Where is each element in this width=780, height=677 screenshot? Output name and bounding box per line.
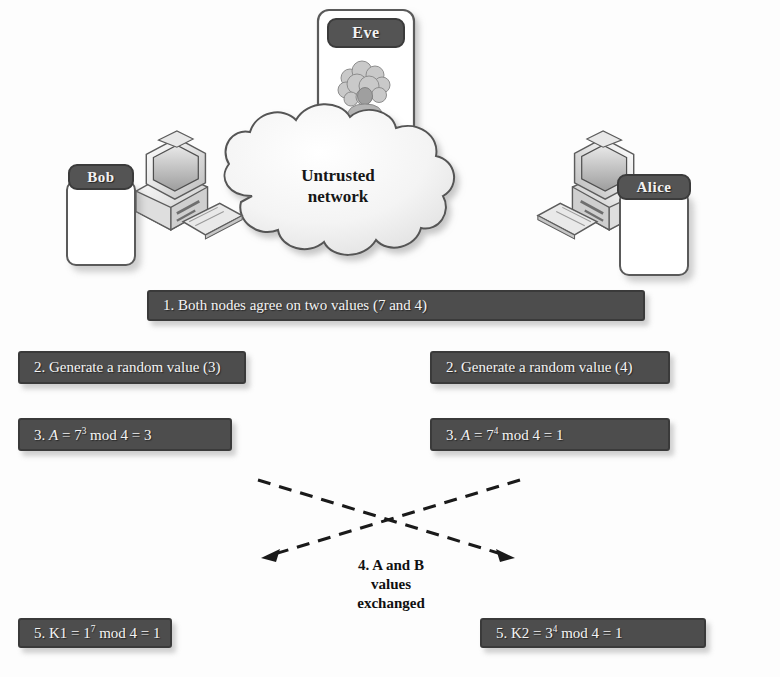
step-5-left-suffix: mod 4 = 1	[95, 625, 160, 641]
step-4-label: 4. A and B values exchanged	[311, 556, 471, 612]
step-2-right-bar: 2. Generate a random value (4)	[430, 351, 670, 384]
bob-card	[66, 180, 136, 266]
alice-name-label: Alice	[637, 179, 672, 196]
step-3-right-bar: 3. A = 74 mod 4 = 1	[430, 418, 670, 451]
step-5-right-suffix: mod 4 = 1	[557, 625, 622, 641]
step-5-left-formula: 5. K1 = 17 mod 4 = 1	[34, 624, 161, 642]
step-3-left-bar: 3. A = 73 mod 4 = 3	[18, 418, 232, 451]
eve-avatar-icon	[338, 61, 390, 118]
step-3-right-suffix: mod 4 = 1	[498, 427, 563, 443]
step-4-line2: values	[311, 575, 471, 594]
step-2-left-text: 2. Generate a random value (3)	[34, 359, 221, 376]
arrowhead-left	[261, 549, 280, 562]
network-label: Untrusted network	[258, 166, 418, 207]
exchange-arrow-left	[268, 480, 520, 556]
step-3-left-prefix: 3.	[34, 427, 49, 443]
step-4-line3: exchanged	[311, 594, 471, 613]
alice-card	[619, 190, 689, 276]
bob-name-label: Bob	[87, 169, 114, 186]
step-5-left-prefix: 5. K1 = 1	[34, 625, 91, 641]
step-3-left-var: A	[49, 427, 58, 443]
step-5-right-prefix: 5. K2 = 3	[496, 625, 553, 641]
step-1-text: 1. Both nodes agree on two values (7 and…	[163, 297, 427, 314]
exchange-arrow-right	[258, 480, 508, 556]
eve-name-label: Eve	[352, 24, 379, 42]
network-label-line1: Untrusted	[258, 166, 418, 187]
step-2-left-bar: 2. Generate a random value (3)	[18, 351, 246, 384]
step-5-right-bar: 5. K2 = 34 mod 4 = 1	[480, 618, 706, 648]
step-5-left-bar: 5. K1 = 17 mod 4 = 1	[18, 618, 172, 648]
eve-name-badge: Eve	[327, 18, 405, 48]
step-1-bar: 1. Both nodes agree on two values (7 and…	[147, 290, 645, 321]
step-3-left-suffix: mod 4 = 3	[86, 427, 151, 443]
step-5-right-formula: 5. K2 = 34 mod 4 = 1	[496, 624, 623, 642]
step-2-right-text: 2. Generate a random value (4)	[446, 359, 633, 376]
step-3-right-prefix: 3.	[446, 427, 461, 443]
step-3-right-var: A	[461, 427, 470, 443]
step-4-line1: 4. A and B	[311, 556, 471, 575]
arrowhead-right	[496, 549, 515, 562]
bob-name-badge: Bob	[68, 164, 134, 190]
step-3-right-eq: = 7	[470, 427, 493, 443]
diagram-canvas: Eve Bob Alice Untrusted network 1. Both …	[0, 0, 780, 677]
step-3-left-eq: = 7	[58, 427, 81, 443]
alice-name-badge: Alice	[617, 174, 691, 200]
exchange-arrows	[258, 480, 520, 556]
network-label-line2: network	[258, 187, 418, 208]
step-3-right-formula: 3. A = 74 mod 4 = 1	[446, 426, 563, 444]
step-3-left-formula: 3. A = 73 mod 4 = 3	[34, 426, 151, 444]
bob-computer-icon	[136, 131, 242, 239]
